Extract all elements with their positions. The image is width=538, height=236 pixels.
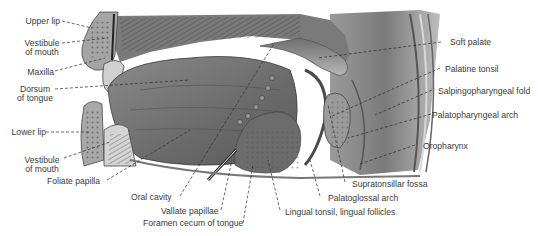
label-soft-palate: Soft palate — [450, 37, 491, 47]
label-vestibule-lower-line2: of mouth — [22, 164, 62, 174]
label-oral-cavity: Oral cavity — [131, 192, 172, 202]
label-palatine-tonsil: Palatine tonsil — [445, 64, 499, 74]
label-salpingopharyngeal-fold: Salpingopharyngeal fold — [438, 86, 530, 96]
label-palatopharyngeal-arch: Palatopharyngeal arch — [432, 110, 518, 120]
anatomy-figure: Upper lip Vestibule of mouth Maxilla Dor… — [0, 0, 538, 236]
label-dorsum-line2: of tongue — [14, 93, 56, 103]
palatoglossal-arch-shape — [305, 70, 326, 165]
label-lower-lip: Lower lip — [6, 127, 46, 137]
label-vestibule-upper-line2: of mouth — [22, 47, 62, 57]
label-foliate-papilla: Foliate papilla — [47, 176, 100, 186]
label-palatoglossal-arch: Palatoglossal arch — [328, 193, 398, 203]
label-upper-lip: Upper lip — [22, 16, 60, 26]
label-foramen-cecum: Foramen cecum of tongue — [143, 218, 243, 228]
label-supratonsillar-fossa: Supratonsillar fossa — [352, 179, 427, 189]
label-vallate-papillae: Vallate papillae — [161, 206, 219, 216]
label-lingual-tonsil: Lingual tonsil, lingual follicles — [285, 207, 395, 217]
label-oropharynx: Oropharynx — [423, 141, 468, 151]
label-maxilla: Maxilla — [18, 67, 54, 77]
